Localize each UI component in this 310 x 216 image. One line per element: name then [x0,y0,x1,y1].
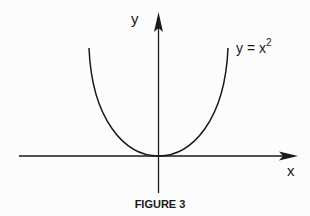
figure-canvas [0,0,310,216]
equation-base: y = x [236,40,266,56]
y-axis [154,12,163,193]
curve-equation-label: y = x2 [236,38,272,56]
x-axis-label: x [287,162,295,179]
figure-caption: FIGURE 3 [0,198,310,210]
y-axis-label: y [131,10,139,27]
equation-exponent: 2 [266,37,272,48]
